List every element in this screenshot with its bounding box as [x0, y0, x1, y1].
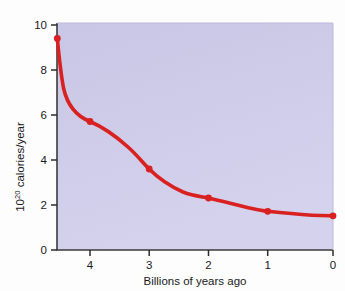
- data-point: [205, 195, 212, 202]
- y-tick-label-4: 4: [41, 154, 48, 166]
- data-point: [264, 208, 271, 215]
- data-point: [146, 166, 153, 173]
- y-tick-label-0: 0: [41, 244, 47, 256]
- y-tick-label-2: 2: [41, 199, 47, 211]
- x-tick-label-1: 1: [264, 259, 270, 271]
- data-point: [330, 212, 337, 219]
- y-tick-label-8: 8: [41, 64, 47, 76]
- y-axis-title-rest: calories/year: [14, 122, 26, 191]
- chart-figure: 0 2 4 6 8 10 4 3 2 1 0 Billions of years…: [0, 0, 345, 291]
- data-point: [87, 118, 94, 125]
- x-tick-label-2: 2: [205, 259, 211, 271]
- chart-canvas: 0 2 4 6 8 10 4 3 2 1 0 Billions of years…: [0, 0, 345, 291]
- y-tick-label-6: 6: [41, 109, 47, 121]
- x-tick-label-0: 0: [330, 259, 336, 271]
- x-tick-label-4: 4: [87, 259, 94, 271]
- data-point: [54, 35, 61, 42]
- x-axis-title: Billions of years ago: [144, 275, 247, 287]
- y-tick-label-10: 10: [34, 19, 47, 31]
- plot-area-shading: [57, 23, 333, 250]
- y-axis-title-base: 10: [14, 199, 26, 212]
- y-axis-title-exponent: 20: [13, 191, 22, 199]
- x-tick-label-3: 3: [146, 259, 152, 271]
